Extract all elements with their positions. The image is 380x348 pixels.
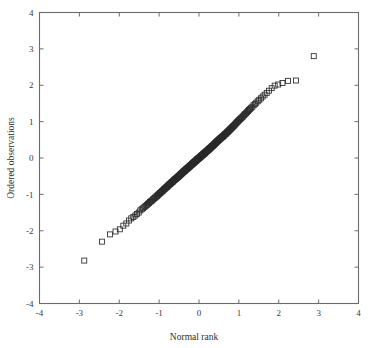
x-tick-label: 4	[356, 308, 361, 318]
y-axis-title: Ordered observations	[6, 117, 16, 199]
y-tick-label: -1	[26, 190, 34, 200]
y-tick-label: -3	[26, 262, 34, 272]
x-tick-label: -4	[36, 308, 44, 318]
qq-plot-figure: -4-3-2-101234 -4-3-2-101234 Normal rank …	[0, 0, 380, 348]
x-tick-label: 3	[316, 308, 321, 318]
y-tick-label: 3	[29, 44, 34, 54]
y-tick-label: 0	[29, 153, 34, 163]
y-tick-label: 1	[29, 117, 34, 127]
x-tick-label: -3	[76, 308, 84, 318]
x-tick-label: 2	[277, 308, 282, 318]
x-tick-label: -1	[155, 308, 163, 318]
x-tick-label: 1	[237, 308, 242, 318]
y-tick-label: -2	[26, 226, 34, 236]
y-tick-label: 2	[29, 80, 34, 90]
y-tick-label: -4	[26, 299, 34, 309]
y-tick-label: 4	[29, 8, 34, 18]
plot-background	[0, 0, 380, 348]
qq-plot-canvas: -4-3-2-101234 -4-3-2-101234 Normal rank …	[0, 0, 380, 348]
x-tick-label: 0	[197, 308, 202, 318]
x-tick-label: -2	[116, 308, 124, 318]
x-axis-title: Normal rank	[170, 332, 219, 342]
